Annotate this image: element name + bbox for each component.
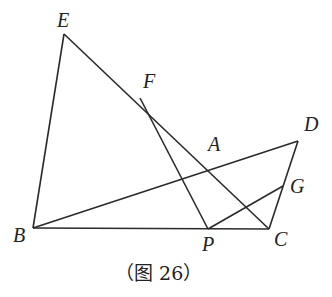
label-P: P (201, 233, 214, 255)
label-F: F (142, 70, 156, 92)
segment-BC (33, 228, 269, 229)
label-B: B (13, 224, 25, 246)
segment-BD (33, 141, 298, 228)
geometry-figure: E F A D G B P C （图 26） (0, 0, 332, 297)
figure-caption: （图 26） (115, 262, 202, 284)
segment-EB (33, 34, 64, 228)
label-C: C (274, 228, 288, 250)
label-D: D (303, 113, 319, 135)
segment-FP (140, 98, 208, 229)
label-E: E (56, 9, 69, 31)
label-G: G (290, 175, 305, 197)
segment-EC (64, 34, 269, 229)
label-A: A (206, 133, 221, 155)
